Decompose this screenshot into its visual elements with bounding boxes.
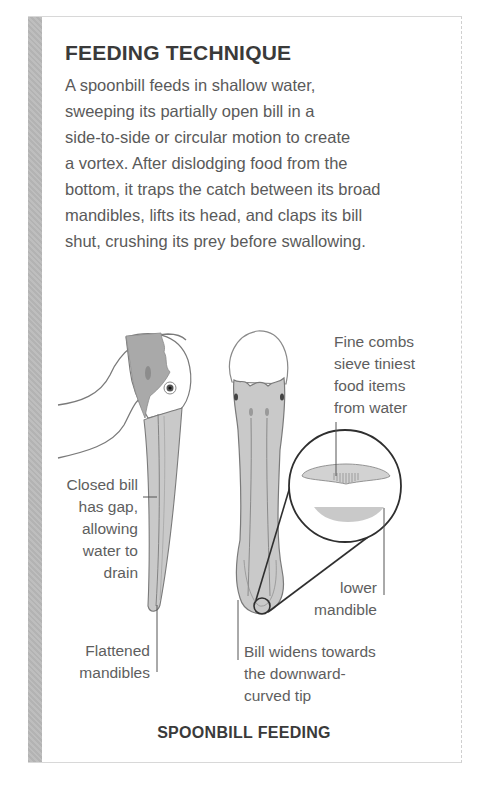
annotation-line: mandible xyxy=(314,599,377,621)
annotation-line: water to xyxy=(66,540,138,562)
annotation-fine-combs: Fine combs sieve tiniest food items from… xyxy=(334,331,415,419)
annotation-flattened-mandibles: Flattened mandibles xyxy=(79,640,150,684)
annotation-line: mandibles xyxy=(79,662,150,684)
annotation-line: from water xyxy=(334,397,415,419)
annotation-line: Fine combs xyxy=(334,331,415,353)
annotation-line: allowing xyxy=(66,518,138,540)
annotation-line: food items xyxy=(334,375,415,397)
annotation-line: Bill widens towards xyxy=(244,641,376,663)
annotation-line: the downward- xyxy=(244,663,376,685)
annotation-line: has gap, xyxy=(66,496,138,518)
annotation-line: drain xyxy=(66,562,138,584)
annotation-line: curved tip xyxy=(244,685,376,707)
spoonbill-top-view-illustration xyxy=(230,331,288,613)
annotation-line: Closed bill xyxy=(66,474,138,496)
annotation-closed-bill: Closed bill has gap, allowing water to d… xyxy=(66,474,138,584)
annotation-line: sieve tiniest xyxy=(334,353,415,375)
annotation-bill-widens: Bill widens towards the downward- curved… xyxy=(244,641,376,707)
annotation-line: lower xyxy=(314,577,377,599)
annotation-line: Flattened xyxy=(79,640,150,662)
diagram-caption: SPOONBILL FEEDING xyxy=(0,724,488,742)
annotation-lower-mandible: lower mandible xyxy=(314,577,377,621)
